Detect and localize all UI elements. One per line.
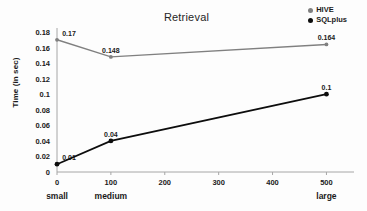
data-point-sqlplus xyxy=(108,138,113,143)
retrieval-line-chart: Retrieval HIVE SQLplus Time (in sec) 00.… xyxy=(0,0,367,211)
data-point-sqlplus xyxy=(55,162,60,167)
data-point-hive xyxy=(109,55,113,59)
plot-area xyxy=(0,0,367,211)
data-point-sqlplus xyxy=(324,92,329,97)
data-point-hive xyxy=(55,38,59,42)
data-point-hive xyxy=(325,43,329,47)
series-line-sqlplus xyxy=(57,94,326,164)
series-line-hive xyxy=(57,40,326,57)
